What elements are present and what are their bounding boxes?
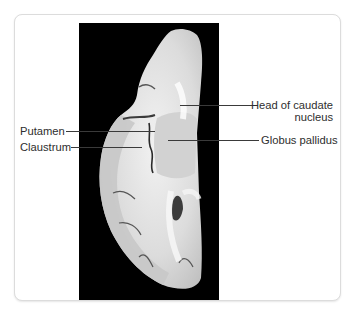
globus-pallidus-leader-line xyxy=(168,140,259,141)
head-of-caudate-label: Head of caudate nucleus xyxy=(230,99,333,123)
putamen-leader-line xyxy=(66,131,155,132)
claustrum-leader-line xyxy=(71,147,142,148)
head-of-caudate-label-line2: nucleus xyxy=(294,111,333,123)
claustrum-label: Claustrum xyxy=(20,141,71,153)
brain-section-photo xyxy=(79,23,219,300)
putamen-label: Putamen xyxy=(20,125,65,137)
head-of-caudate-label-line1: Head of caudate xyxy=(251,99,333,111)
globus-pallidus-label: Globus pallidus xyxy=(261,134,338,146)
